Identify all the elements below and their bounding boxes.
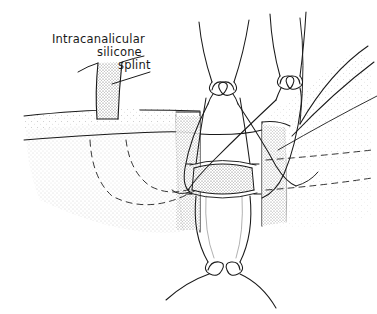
wound-edge-right xyxy=(262,122,290,227)
tissue-shading-left xyxy=(26,112,180,233)
knot-lower xyxy=(166,262,276,308)
figure-canvas: Intracanalicular silicone splint xyxy=(0,0,377,314)
canaliculus-proximal xyxy=(196,98,250,164)
illustration-svg xyxy=(0,0,377,314)
canaliculus-distal xyxy=(195,196,251,262)
knot-upper-left xyxy=(208,82,238,104)
suture-strands xyxy=(199,12,306,82)
surface-line-mid xyxy=(200,130,262,135)
label-line-3: splint xyxy=(118,59,151,73)
